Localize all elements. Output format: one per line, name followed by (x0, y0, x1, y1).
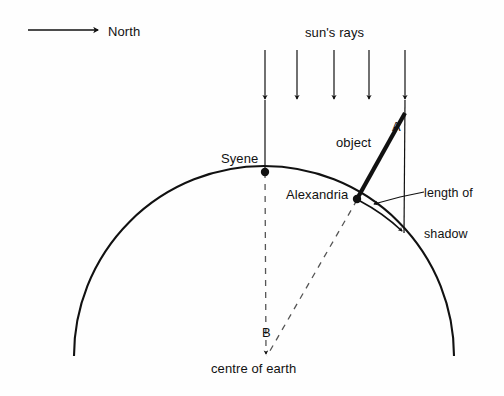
sun-ray-5-extension (404, 100, 405, 233)
label-object: object (336, 136, 371, 150)
label-north: North (108, 25, 140, 39)
label-length-of-shadow: length of shadow (424, 160, 473, 268)
radius-alexandria-dashed (267, 200, 357, 356)
label-angle-b: B (262, 326, 271, 340)
syene-point-marker (261, 168, 269, 176)
label-length-of-shadow-line1: length of (424, 187, 473, 201)
label-length-of-shadow-line2: shadow (424, 228, 473, 242)
alexandria-point-marker (353, 195, 361, 203)
label-syene: Syene (221, 152, 258, 166)
label-centre-of-earth: centre of earth (211, 362, 296, 376)
label-suns-rays: sun's rays (305, 26, 364, 40)
eratosthenes-diagram: North sun's rays Syene object A Alexandr… (0, 0, 504, 396)
suns-rays-group (265, 50, 405, 233)
label-angle-a: A (392, 120, 401, 134)
label-alexandria: Alexandria (286, 188, 348, 202)
shadow-label-leader-line (374, 192, 424, 204)
